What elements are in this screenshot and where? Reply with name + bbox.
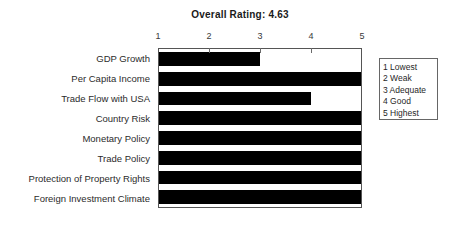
- x-axis-tick-labels: 12345: [158, 31, 362, 45]
- y-axis-label-slot: Per Capita Income: [0, 68, 154, 88]
- y-axis-label-slot: Trade Policy: [0, 148, 154, 168]
- x-axis-tick-label: 5: [352, 31, 372, 41]
- x-axis-tick-label: 2: [199, 31, 219, 41]
- y-axis-label: Trade Flow with USA: [61, 93, 154, 104]
- legend-item: 2 Weak: [383, 73, 437, 84]
- bar[interactable]: [159, 151, 361, 165]
- y-axis-label: Trade Policy: [98, 153, 154, 164]
- bar-slot: [159, 108, 361, 128]
- y-axis-label-slot: Trade Flow with USA: [0, 88, 154, 108]
- y-axis-label: Foreign Investment Climate: [34, 193, 154, 204]
- y-axis-category-labels: GDP GrowthPer Capita IncomeTrade Flow wi…: [0, 48, 154, 208]
- bar[interactable]: [159, 171, 361, 185]
- chart-title: Overall Rating: 4.63: [0, 9, 470, 20]
- x-axis-tick-label: 1: [148, 31, 168, 41]
- bar[interactable]: [159, 72, 361, 86]
- bar-slot: [159, 148, 361, 168]
- bars-layer: [159, 49, 361, 207]
- x-axis-tick: [260, 48, 261, 53]
- y-axis-label: GDP Growth: [96, 53, 154, 64]
- y-axis-label-slot: GDP Growth: [0, 48, 154, 68]
- bar-slot: [159, 69, 361, 89]
- bar-slot: [159, 128, 361, 148]
- x-axis-ticks: [158, 48, 362, 53]
- y-axis-label-slot: Foreign Investment Climate: [0, 188, 154, 208]
- y-axis-label-slot: Protection of Property Rights: [0, 168, 154, 188]
- legend-box: 1 Lowest2 Weak3 Adequate4 Good5 Highest: [379, 58, 438, 120]
- bar[interactable]: [159, 190, 361, 204]
- x-axis-tick: [209, 48, 210, 53]
- y-axis-label: Protection of Property Rights: [29, 173, 154, 184]
- bar-slot: [159, 168, 361, 188]
- y-axis-label: Per Capita Income: [71, 73, 154, 84]
- bar[interactable]: [159, 52, 260, 66]
- x-axis-tick-label: 4: [301, 31, 321, 41]
- legend-item: 1 Lowest: [383, 62, 437, 73]
- bar[interactable]: [159, 92, 311, 106]
- x-axis-tick-label: 3: [250, 31, 270, 41]
- bar-slot: [159, 187, 361, 207]
- plot-area: [158, 48, 362, 208]
- y-axis-label: Country Risk: [96, 113, 154, 124]
- y-axis-label: Monetary Policy: [82, 133, 154, 144]
- legend-item: 4 Good: [383, 96, 437, 107]
- bar[interactable]: [159, 131, 361, 145]
- x-axis-tick: [311, 48, 312, 53]
- y-axis-label-slot: Monetary Policy: [0, 128, 154, 148]
- legend-item: 3 Adequate: [383, 85, 437, 96]
- legend-item: 5 Highest: [383, 108, 437, 119]
- y-axis-label-slot: Country Risk: [0, 108, 154, 128]
- bar-slot: [159, 89, 361, 109]
- bar[interactable]: [159, 111, 361, 125]
